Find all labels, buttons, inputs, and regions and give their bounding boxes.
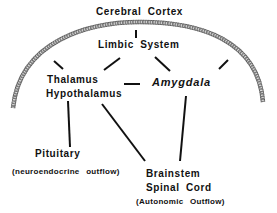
node-amygdala: Amygdala <box>152 76 211 88</box>
node-spinal-cord: Spinal Cord <box>146 182 212 193</box>
edge-hypothalamus-brainstem <box>102 104 145 161</box>
edge-limbic-thalamus <box>104 58 120 70</box>
edge-hypothalamus-pituitary <box>68 101 70 147</box>
node-brainstem: Brainstem <box>146 168 200 179</box>
node-cerebral-cortex: Cerebral Cortex <box>96 6 183 17</box>
brainstem-note: (Autonomic Outflow) <box>136 197 225 206</box>
pituitary-note: (neuroendocrine outflow) <box>12 167 120 176</box>
diagram-canvas <box>0 0 277 213</box>
node-hypothalamus: Hypothalamus <box>46 88 122 99</box>
node-pituitary: Pituitary <box>35 148 80 159</box>
node-thalamus: Thalamus <box>47 74 98 85</box>
node-limbic-system: Limbic System <box>98 39 179 50</box>
edge-cortex-amygdala <box>219 60 228 69</box>
edge-cortex-thalamus <box>54 61 63 69</box>
edge-amygdala-brainstem <box>180 96 186 161</box>
edge-limbic-amygdala <box>155 57 170 71</box>
